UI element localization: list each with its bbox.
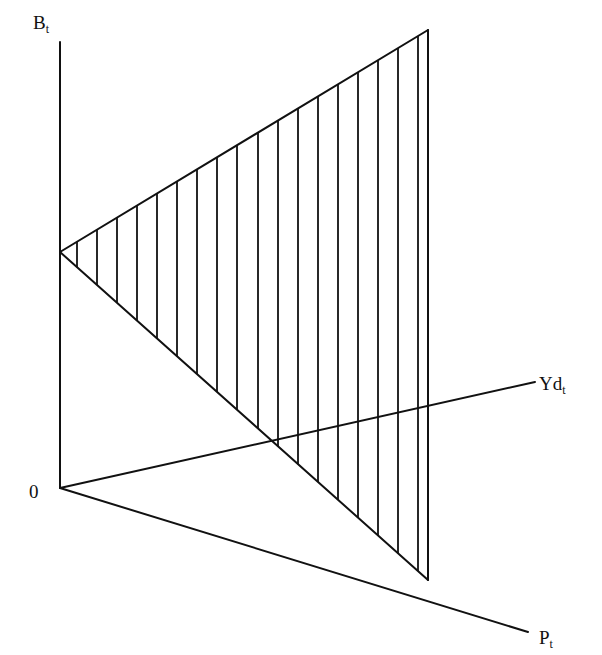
p-ray bbox=[60, 488, 528, 632]
origin-label: 0 bbox=[29, 482, 39, 501]
yd-axis-label: Ydt bbox=[539, 374, 566, 396]
triangle-lower-edge bbox=[60, 252, 428, 580]
p-axis-label: Pt bbox=[539, 628, 553, 650]
vertical-hatching bbox=[77, 36, 418, 571]
vertical-axis-label: Bt bbox=[33, 13, 49, 35]
hatched-triangle-diagram bbox=[0, 0, 602, 655]
triangle-upper-edge bbox=[60, 30, 428, 252]
